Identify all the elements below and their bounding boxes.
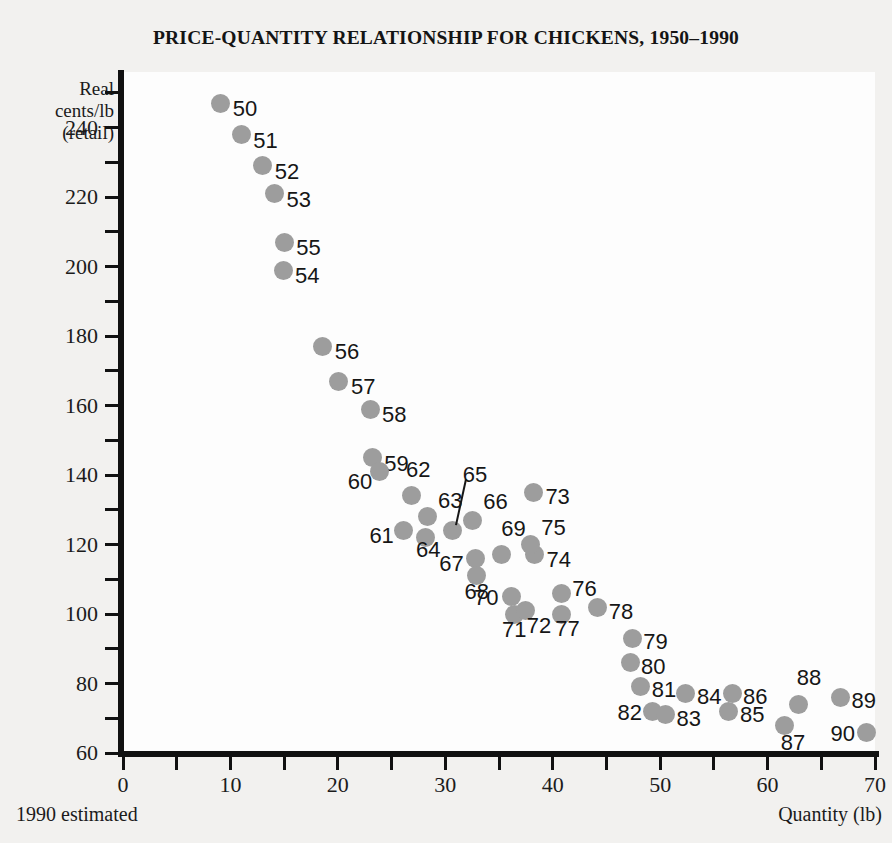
- y-axis-tick: [105, 126, 119, 129]
- y-axis-tick: [105, 543, 119, 546]
- data-point: [275, 233, 294, 252]
- data-point: [621, 653, 640, 672]
- x-axis-tick-label: 40: [523, 772, 583, 798]
- data-point-label: 56: [335, 341, 359, 363]
- y-axis-tick-label: 220: [28, 186, 98, 208]
- data-point-label: 50: [233, 98, 257, 120]
- y-axis-tick: [105, 682, 119, 685]
- y-axis-tick: [105, 752, 119, 755]
- data-point-label: 55: [296, 237, 320, 259]
- x-axis-tick: [444, 757, 447, 770]
- data-point-label: 77: [555, 618, 579, 640]
- x-axis-tick-label: 0: [93, 772, 153, 798]
- x-axis-tick: [605, 757, 608, 770]
- chart-title: PRICE-QUANTITY RELATIONSHIP FOR CHICKENS…: [0, 27, 892, 49]
- data-point: [232, 125, 251, 144]
- data-point: [463, 511, 482, 530]
- y-axis-tick: [105, 230, 119, 233]
- data-point-label: 53: [286, 189, 310, 211]
- data-point-label: 73: [545, 486, 569, 508]
- y-axis-tick-label: 200: [28, 256, 98, 278]
- data-point-label: 70: [474, 587, 498, 609]
- y-axis-tick-label: 140: [28, 464, 98, 486]
- x-axis-tick: [712, 757, 715, 770]
- y-axis-tick: [105, 404, 119, 407]
- y-axis-tick: [105, 717, 119, 720]
- chart-footnote: 1990 estimated: [16, 803, 138, 826]
- x-axis-tick: [766, 757, 769, 770]
- data-point-label: 54: [295, 265, 319, 287]
- x-axis-tick: [283, 757, 286, 770]
- x-axis-label: Quantity (lb): [778, 803, 882, 826]
- data-point: [361, 400, 380, 419]
- plot-area: [123, 72, 875, 753]
- y-axis-line: [118, 70, 124, 757]
- data-point-label: 64: [416, 539, 440, 561]
- data-point: [588, 598, 607, 617]
- y-axis-tick: [105, 196, 119, 199]
- data-point-label: 81: [652, 679, 676, 701]
- y-axis-tick: [105, 91, 119, 94]
- data-point-label: 87: [781, 732, 805, 754]
- data-point-label: 60: [348, 471, 372, 493]
- y-axis-tick: [105, 265, 119, 268]
- data-point: [857, 723, 876, 742]
- data-point-label: 51: [253, 130, 277, 152]
- x-axis-tick-label: 50: [630, 772, 690, 798]
- y-axis-tick: [105, 613, 119, 616]
- data-point-label: 74: [546, 549, 570, 571]
- data-point: [265, 184, 284, 203]
- x-axis-tick: [229, 757, 232, 770]
- x-axis-tick: [874, 757, 877, 770]
- data-point-label: 84: [697, 686, 721, 708]
- y-axis-tick-label: 180: [28, 325, 98, 347]
- data-point: [211, 94, 230, 113]
- x-axis-tick: [122, 757, 125, 770]
- data-point: [789, 695, 808, 714]
- x-axis-tick-label: 70: [845, 772, 892, 798]
- y-axis-tick-label: 240: [28, 117, 98, 139]
- data-point-label: 66: [483, 491, 507, 513]
- x-axis-tick-label: 30: [415, 772, 475, 798]
- y-axis-tick-label: 80: [28, 673, 98, 695]
- data-point: [524, 483, 543, 502]
- data-point-label: 52: [275, 161, 299, 183]
- y-axis-tick: [105, 300, 119, 303]
- data-point-label: 75: [541, 517, 565, 539]
- x-axis-tick: [820, 757, 823, 770]
- y-axis-tick: [105, 369, 119, 372]
- x-axis-tick-label: 20: [308, 772, 368, 798]
- data-point-label: 78: [609, 601, 633, 623]
- data-point-label: 69: [501, 518, 525, 540]
- data-point-label: 90: [830, 723, 854, 745]
- data-point: [623, 629, 642, 648]
- x-axis-tick: [551, 757, 554, 770]
- y-axis-tick: [105, 474, 119, 477]
- y-axis-tick: [105, 578, 119, 581]
- data-point: [521, 535, 540, 554]
- data-point-label: 72: [527, 615, 551, 637]
- x-axis-tick: [390, 757, 393, 770]
- x-axis-tick: [498, 757, 501, 770]
- data-point-label: 57: [351, 376, 375, 398]
- y-axis-tick: [105, 335, 119, 338]
- data-point: [274, 261, 293, 280]
- x-axis-tick: [659, 757, 662, 770]
- data-point: [466, 549, 485, 568]
- data-point-label: 71: [502, 619, 526, 641]
- data-point-label: 67: [439, 553, 463, 575]
- y-axis-tick: [105, 508, 119, 511]
- y-axis-tick-label: 60: [28, 742, 98, 764]
- data-point-label: 80: [641, 656, 665, 678]
- data-point-label: 61: [369, 525, 393, 547]
- y-axis-tick-label: 160: [28, 395, 98, 417]
- y-axis-label-line-1: Real: [18, 78, 114, 100]
- data-point-label: 89: [852, 690, 876, 712]
- y-axis-tick: [105, 647, 119, 650]
- x-axis-tick: [336, 757, 339, 770]
- x-axis-tick-label: 60: [738, 772, 798, 798]
- y-axis-tick: [105, 439, 119, 442]
- data-point: [394, 521, 413, 540]
- y-axis-tick-label: 120: [28, 534, 98, 556]
- data-point-label: 62: [406, 459, 430, 481]
